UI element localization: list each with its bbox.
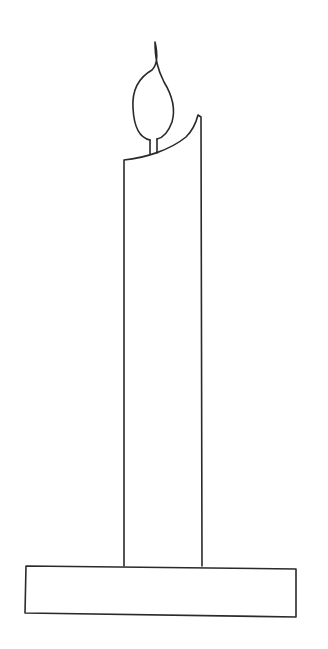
flame-icon — [133, 42, 174, 140]
candle-drawing — [0, 0, 328, 649]
wick-icon — [150, 139, 157, 154]
candle-holder-base — [25, 566, 296, 617]
candle-body — [124, 115, 202, 566]
